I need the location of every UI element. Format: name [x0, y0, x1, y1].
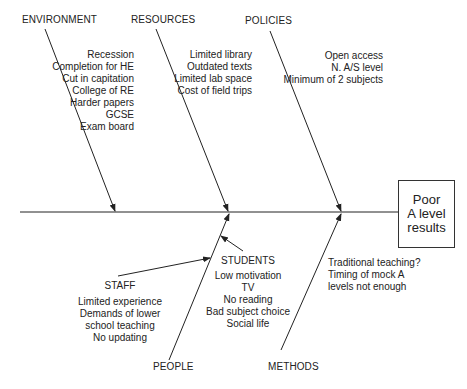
people-label: PEOPLE [153, 361, 194, 373]
staff-label: STAFF [78, 280, 162, 292]
students-arrow [221, 236, 243, 251]
methods-causes: Traditional teaching? Timing of mock A l… [328, 257, 420, 293]
resources-causes: Limited library Outdated texts Limited l… [174, 49, 252, 97]
resources-label: RESOURCES [131, 14, 195, 26]
students-group: STUDENTS Low motivation TV No reading Ba… [203, 255, 293, 330]
methods-label: METHODS [268, 361, 319, 373]
environment-label: ENVIRONMENT [22, 14, 97, 26]
staff-group: STAFF Limited experience Demands of lowe… [78, 280, 162, 344]
policies-causes: Open access N. A/S level Minimum of 2 su… [284, 50, 383, 86]
staff-arrow [118, 258, 210, 276]
effect-box: Poor A level results [398, 180, 455, 248]
students-label: STUDENTS [203, 255, 293, 267]
environment-causes: Recession Completion for HE Cut in capit… [52, 49, 134, 133]
policies-label: POLICIES [245, 15, 292, 27]
